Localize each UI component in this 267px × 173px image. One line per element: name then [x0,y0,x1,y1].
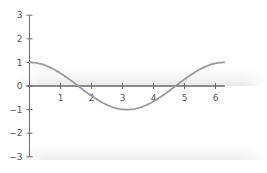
axes [27,15,225,157]
x-tick-label: 6 [213,93,219,103]
y-tick-label: −2 [9,128,22,138]
y-tick-label: −3 [9,152,22,162]
y-tick-label: 2 [17,34,23,44]
cosine-chart: 123456 3210−1−2−3 [0,0,267,173]
y-tick-label: −1 [9,105,22,115]
x-tick-label: 3 [120,93,126,103]
x-tick-label: 5 [182,93,188,103]
y-tick-label: 3 [17,10,23,20]
background-bands [14,60,267,160]
x-tick-label: 1 [58,93,64,103]
y-tick-label: 1 [17,58,23,68]
y-tick-label: 0 [17,81,23,91]
